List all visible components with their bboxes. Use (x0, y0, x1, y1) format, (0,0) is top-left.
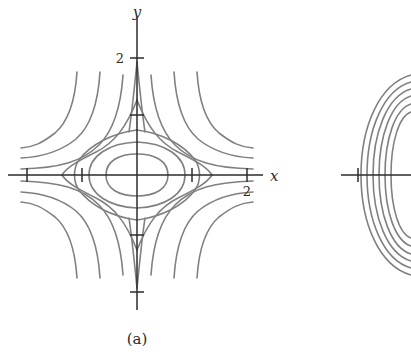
hyperbolic-contours-quadrant-2 (21, 72, 123, 169)
x-tick-label-2: 2 (243, 184, 251, 199)
contour-cusp-upper-right (137, 62, 145, 132)
contour-cusp-upper-left (129, 62, 137, 132)
contour-cusp-lower-left (129, 218, 137, 288)
contour-hyperbola-q2-1 (21, 75, 123, 169)
hyperbolic-contours-quadrant-3 (21, 181, 123, 278)
hyperbolic-contours-quadrant-4 (151, 181, 253, 278)
contour-hyperbola-q3-3 (21, 202, 77, 278)
panel-a: x y 2 2 (a) (8, 3, 279, 348)
contour-hyperbola-q1-3 (197, 72, 253, 148)
contour-hyperbola-q4-3 (197, 202, 253, 278)
contour-cusp-lower-right (137, 218, 145, 288)
y-axis-label: y (132, 3, 142, 21)
x-axis-label: x (270, 167, 279, 185)
contour-hyperbola-q3-1 (21, 181, 123, 275)
contour-hyperbola-q2-3 (21, 72, 77, 148)
panel-label-a: (a) (127, 330, 148, 348)
y-tick-label-2: 2 (116, 51, 124, 66)
contour-hyperbola-q1-1 (151, 75, 253, 169)
contour-hyperbola-q4-1 (151, 181, 253, 275)
hyperbolic-contours-quadrant-1 (151, 72, 253, 169)
contour-figure: x y 2 2 (a) (0, 0, 411, 356)
panel-b-partial (341, 75, 411, 275)
figure-container: x y 2 2 (a) (0, 0, 411, 356)
